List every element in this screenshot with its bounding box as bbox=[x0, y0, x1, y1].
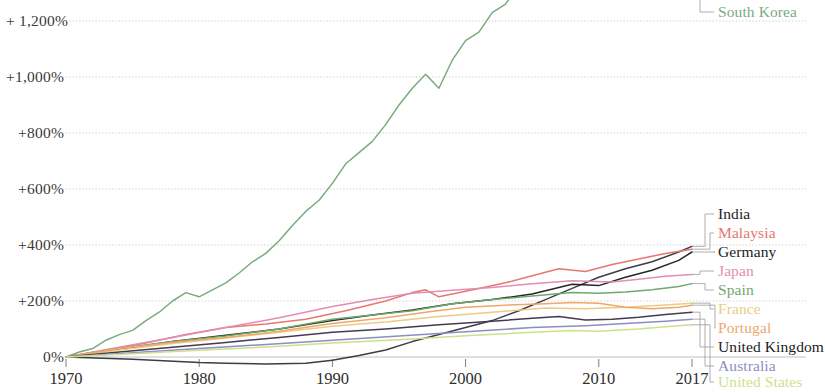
legend-item-japan[interactable]: Japan bbox=[718, 263, 754, 279]
legend-item-spain[interactable]: Spain bbox=[718, 282, 754, 298]
legend-item-united-states[interactable]: United States bbox=[718, 374, 802, 390]
legend-item-france[interactable]: France bbox=[718, 301, 761, 317]
legend-item-australia[interactable]: Australia bbox=[718, 358, 776, 374]
legend-item-south-korea[interactable]: South Korea bbox=[718, 4, 797, 20]
legend-item-india[interactable]: India bbox=[718, 206, 750, 222]
legend-item-portugal[interactable]: Portugal bbox=[718, 320, 771, 336]
legend-item-germany[interactable]: Germany bbox=[718, 244, 776, 260]
legend-item-malaysia[interactable]: Malaysia bbox=[718, 225, 776, 241]
legend-item-united-kingdom[interactable]: United Kingdom bbox=[718, 339, 824, 355]
series-legend: South KoreaIndiaMalaysiaGermanyJapanSpai… bbox=[0, 0, 825, 392]
chart-container: + 1,200%+1,000%+800%+600%+400%+200%0% 19… bbox=[0, 0, 825, 392]
